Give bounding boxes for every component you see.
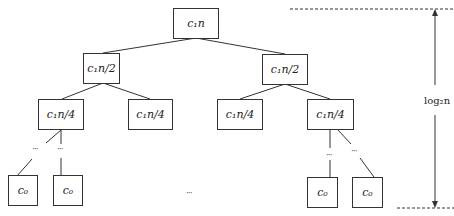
node-level2-right: c₁n/2 (262, 54, 308, 85)
leaf-node-2: c₀ (53, 175, 83, 206)
ellipsis-1: ··· (32, 144, 38, 154)
node-root: c₁n (173, 8, 219, 39)
leaf-node-4: c₀ (352, 177, 383, 208)
leaf-node-3: c₀ (307, 177, 338, 208)
node-level3-lr: c₁n/4 (128, 99, 173, 130)
ellipsis-2: ··· (57, 144, 63, 154)
ellipsis-5: ··· (351, 146, 357, 156)
node-level2-left: c₁n/2 (83, 53, 120, 84)
node-level3-rl: c₁n/4 (217, 99, 263, 130)
leaf-node-1: c₀ (8, 175, 38, 206)
tree-height-label: log₂n (424, 95, 450, 106)
node-level3-ll: c₁n/4 (38, 99, 84, 130)
node-level3-rr: c₁n/4 (307, 99, 354, 130)
ellipsis-3: ··· (186, 188, 192, 198)
ellipsis-4: ··· (326, 150, 332, 160)
